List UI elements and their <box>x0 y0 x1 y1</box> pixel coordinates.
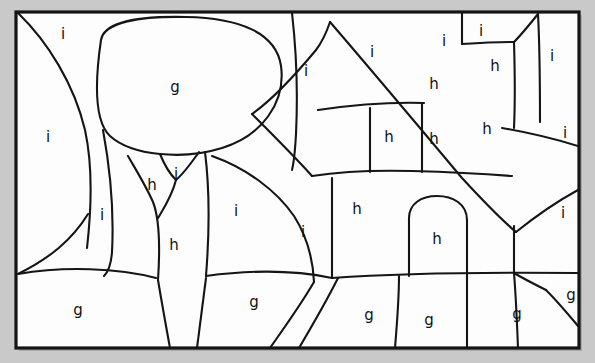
region-label-r26: g <box>364 306 374 324</box>
region-label-r02: g <box>170 78 180 96</box>
region-label-r13: h <box>482 120 492 138</box>
region-label-r22: i <box>561 204 565 222</box>
region-label-r28: g <box>512 305 522 323</box>
region-label-r24: g <box>73 301 83 319</box>
region-label-r08: i <box>550 47 554 65</box>
region-label-r19: i <box>301 223 305 241</box>
segmentation-sketch: i g i i i i h i i h h h h i h i i i i h … <box>0 0 595 363</box>
region-label-r15: h <box>147 176 157 194</box>
region-label-r10: h <box>429 75 439 93</box>
region-label-r01: i <box>61 25 65 43</box>
segmentation-figure-root: i g i i i i h i i h h h h i h i i i i h … <box>0 0 595 363</box>
region-label-r12: h <box>429 130 439 148</box>
region-label-r27: g <box>424 311 434 329</box>
region-label-r04: i <box>370 43 374 61</box>
region-label-r21: h <box>432 230 442 248</box>
region-label-r23: h <box>169 236 179 254</box>
region-label-r09: i <box>46 128 50 146</box>
region-label-r29: g <box>566 286 576 304</box>
region-label-r17: i <box>100 206 104 224</box>
boundary-dormer-right <box>514 42 515 128</box>
region-label-r06: i <box>479 22 483 40</box>
region-label-r03: i <box>304 62 308 80</box>
region-label-r11: h <box>384 128 394 146</box>
region-label-r14: i <box>563 124 567 142</box>
region-label-r16: i <box>174 165 178 183</box>
region-label-r05: i <box>442 32 446 50</box>
region-label-r20: h <box>352 200 362 218</box>
region-label-r07: h <box>490 57 500 75</box>
region-label-r18: i <box>234 202 238 220</box>
region-label-r25: g <box>249 293 259 311</box>
